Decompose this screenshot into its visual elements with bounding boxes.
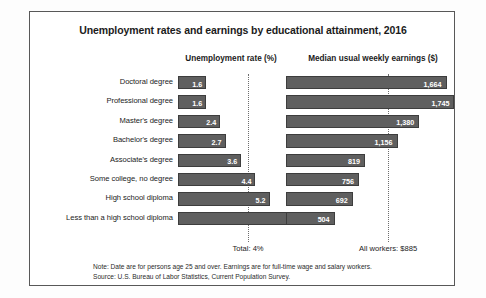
chart-row: Master's degree2.41,380 — [30, 113, 456, 132]
category-label: High school diploma — [30, 193, 173, 202]
category-label: Professional degree — [30, 96, 173, 105]
earnings-bar: 1,745 — [286, 95, 454, 108]
unemployment-bar-value: 3.6 — [227, 157, 237, 166]
unemployment-bar-value: 5.2 — [256, 196, 266, 205]
chart-row: High school diploma5.2692 — [30, 190, 456, 209]
category-label: Some college, no degree — [30, 174, 173, 183]
unemployment-bar-value: 2.4 — [206, 118, 216, 127]
chart-row: Professional degree1.61,745 — [30, 93, 456, 112]
earnings-bar-value: 1,380 — [396, 118, 414, 127]
unemployment-bar: 4.4 — [178, 173, 255, 186]
chart-frame: Unemployment rates and earnings by educa… — [29, 11, 455, 286]
category-label: Doctoral degree — [30, 77, 173, 86]
earnings-bar-value: 692 — [336, 196, 348, 205]
unemployment-panel-header: Unemployment rate (%) — [170, 54, 292, 63]
unemployment-bar: 2.4 — [178, 115, 220, 128]
unemployment-bar-value: 1.6 — [192, 80, 202, 89]
totals-row: Total: 4% All workers: $885 — [30, 244, 456, 256]
earnings-bar-value: 756 — [342, 177, 354, 186]
earnings-bar-value: 819 — [348, 157, 360, 166]
unemployment-bar: 1.6 — [178, 95, 206, 108]
unemployment-bar: 5.2 — [178, 192, 270, 205]
unemployment-bar: 1.6 — [178, 76, 206, 89]
chart-row: Associate's degree3.6819 — [30, 152, 456, 171]
unemployment-bar: 2.7 — [178, 134, 226, 147]
earnings-bar: 1,664 — [286, 76, 447, 89]
earnings-bar: 1,380 — [286, 115, 419, 128]
unemployment-bar-value: 4.4 — [241, 177, 251, 186]
earnings-bar: 504 — [286, 212, 335, 225]
chart-page: Unemployment rates and earnings by educa… — [0, 0, 486, 298]
earnings-bar-value: 1,156 — [375, 138, 393, 147]
chart-footnotes: Note: Date are for persons age 25 and ov… — [93, 262, 453, 281]
category-label: Less than a high school diploma — [30, 213, 173, 222]
category-label: Bachelor's degree — [30, 135, 173, 144]
category-label: Associate's degree — [30, 155, 173, 164]
chart-row: Some college, no degree4.4756 — [30, 171, 456, 190]
earnings-bar: 692 — [286, 192, 353, 205]
earnings-bar-value: 504 — [318, 215, 330, 224]
chart-plot-area: Doctoral degree1.61,664Professional degr… — [30, 74, 456, 236]
earnings-bar-value: 1,664 — [424, 80, 442, 89]
earnings-total-label: All workers: $885 — [328, 244, 448, 253]
chart-row: Less than a high school diploma7.4504 — [30, 210, 456, 229]
chart-row: Doctoral degree1.61,664 — [30, 74, 456, 93]
earnings-bar-value: 1,745 — [431, 99, 449, 108]
earnings-bar: 756 — [286, 173, 359, 186]
category-label: Master's degree — [30, 116, 173, 125]
unemployment-bar-value: 2.7 — [212, 138, 222, 147]
unemployment-total-label: Total: 4% — [188, 244, 308, 253]
unemployment-bar-value: 1.6 — [192, 99, 202, 108]
note-line: Note: Date are for persons age 25 and ov… — [93, 262, 453, 272]
earnings-bar: 1,156 — [286, 134, 398, 147]
earnings-bar: 819 — [286, 154, 365, 167]
chart-title: Unemployment rates and earnings by educa… — [30, 24, 456, 36]
earnings-panel-header: Median usual weekly earnings ($) — [288, 54, 458, 63]
source-line: Source: U.S. Bureau of Labor Statistics,… — [93, 272, 453, 282]
unemployment-bar: 3.6 — [178, 154, 241, 167]
chart-row: Bachelor's degree2.71,156 — [30, 132, 456, 151]
